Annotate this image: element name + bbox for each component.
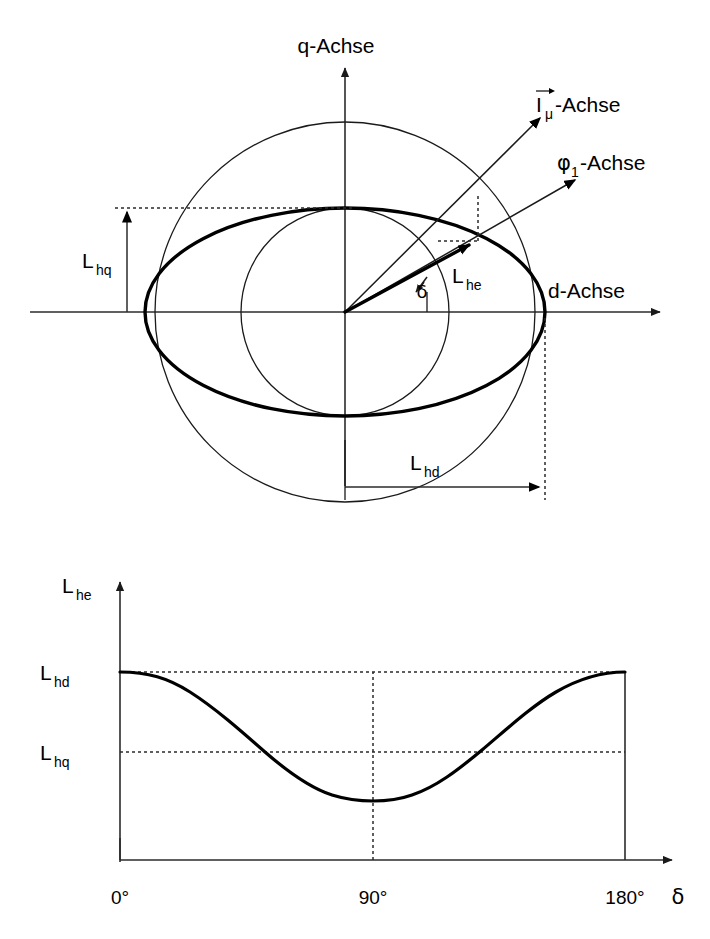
- imu-axis-label: -Achse: [555, 93, 620, 116]
- lhe-symbol: L: [452, 264, 464, 287]
- phi1-axis-symbol: φ: [557, 151, 571, 175]
- lhd-label-group: L hd: [410, 451, 440, 480]
- imu-axis-symbol: I: [536, 93, 542, 116]
- chart-ylabel-subscript: he: [76, 587, 92, 603]
- phi1-axis-label-group: φ 1 -Achse: [557, 151, 645, 180]
- imu-axis-subscript: μ: [545, 106, 553, 122]
- imu-axis-ray: [345, 118, 540, 312]
- top-diagram: q-Achse d-Achse I μ -Achse φ 1 -Achse L …: [30, 34, 660, 502]
- figure-svg: q-Achse d-Achse I μ -Achse φ 1 -Achse L …: [0, 0, 710, 939]
- lhq-label-group: L hq: [82, 249, 112, 278]
- chart-ytick-lhq-subscript: hq: [54, 754, 70, 770]
- delta-angle-label: δ: [416, 281, 427, 302]
- chart-ytick-lhq-group: L hq: [40, 741, 70, 770]
- phi1-axis-subscript: 1: [571, 164, 579, 180]
- phi1-axis-label: -Achse: [580, 151, 645, 174]
- lhe-vector: [345, 245, 469, 312]
- chart-ytick-lhd-group: L hd: [40, 661, 70, 690]
- chart-xtick-180: 180°: [605, 887, 644, 908]
- lhe-label-group: L he: [452, 264, 482, 293]
- chart-xtick-0: 0°: [111, 887, 129, 908]
- chart-ylabel-group: L he: [62, 574, 92, 603]
- chart-ytick-lhd-symbol: L: [40, 661, 52, 684]
- lhe-subscript: he: [466, 277, 482, 293]
- lhd-symbol: L: [410, 451, 422, 474]
- chart-ylabel-symbol: L: [62, 574, 74, 597]
- chart-xtick-90: 90°: [359, 887, 388, 908]
- d-axis-label: d-Achse: [548, 279, 625, 302]
- chart-xlabel: δ: [672, 885, 685, 909]
- lhq-symbol: L: [82, 249, 94, 272]
- technical-figure: q-Achse d-Achse I μ -Achse φ 1 -Achse L …: [0, 0, 710, 939]
- lhq-subscript: hq: [96, 262, 112, 278]
- bottom-chart: L he L hd L hq 0° 90° 180° δ: [40, 574, 684, 909]
- q-axis-label: q-Achse: [297, 34, 374, 57]
- chart-ytick-lhd-subscript: hd: [54, 674, 70, 690]
- chart-ytick-lhq-symbol: L: [40, 741, 52, 764]
- lhd-subscript: hd: [424, 464, 440, 480]
- imu-axis-label-group: I μ -Achse: [536, 88, 620, 122]
